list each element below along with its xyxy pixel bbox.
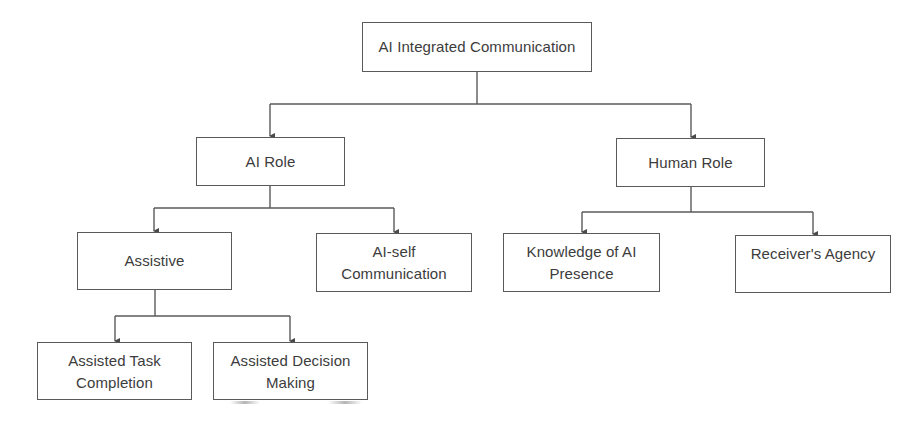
node-label: Assistive xyxy=(124,250,184,272)
node-label: Knowledge of AI Presence xyxy=(527,241,637,285)
node-assisted-decision-making: Assisted Decision Making xyxy=(213,342,368,400)
scan-artifact xyxy=(328,401,362,404)
node-human-role: Human Role xyxy=(616,138,765,187)
diagram-canvas: AI Integrated Communication AI Role Huma… xyxy=(0,0,921,430)
node-label: AI Integrated Communication xyxy=(379,36,576,58)
node-label: AI-self Communication xyxy=(341,241,447,285)
node-label: AI Role xyxy=(246,151,296,173)
node-label: Receiver's Agency xyxy=(751,243,876,265)
node-ai-role: AI Role xyxy=(196,137,345,186)
node-ai-self-communication: AI-self Communication xyxy=(316,233,472,292)
node-ai-integrated-communication: AI Integrated Communication xyxy=(362,22,592,72)
node-label: Assisted Task Completion xyxy=(68,350,161,394)
node-assisted-task-completion: Assisted Task Completion xyxy=(37,342,192,400)
node-label: Human Role xyxy=(648,152,732,174)
node-label: Assisted Decision Making xyxy=(230,350,350,394)
scan-artifact xyxy=(230,401,260,404)
node-receivers-agency: Receiver's Agency xyxy=(735,235,891,293)
node-assistive: Assistive xyxy=(77,232,232,290)
node-knowledge-of-ai-presence: Knowledge of AI Presence xyxy=(503,233,660,292)
